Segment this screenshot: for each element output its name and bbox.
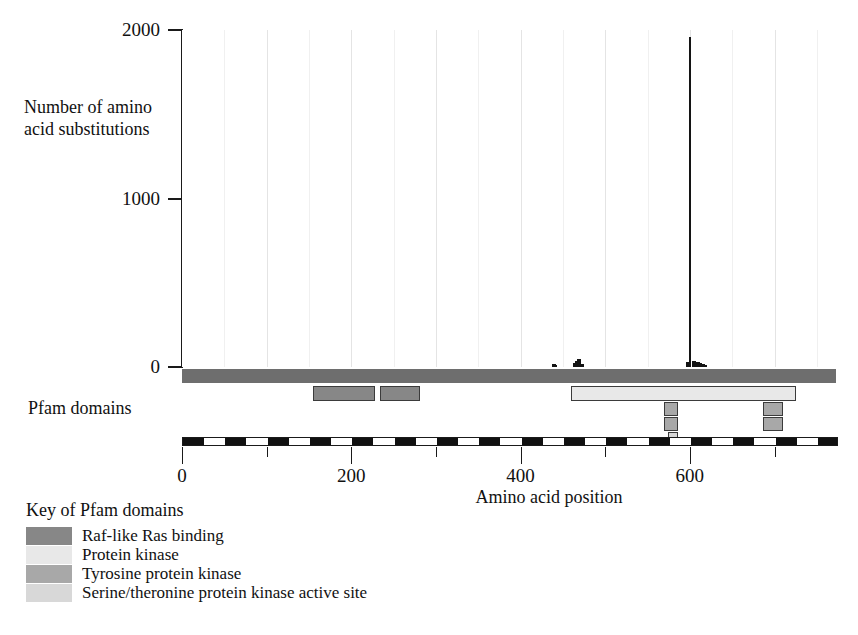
legend-item: Serine/theronine protein kinase active s…: [26, 583, 628, 602]
ruler-segment: [733, 438, 754, 445]
x-tick-label: 400: [471, 466, 571, 486]
x-tick: [690, 447, 691, 464]
x-tick-minor: [436, 447, 437, 457]
gridline: [648, 30, 649, 367]
substitution-bar: [553, 365, 557, 367]
gridline: [817, 30, 818, 367]
legend-item: Raf-like Ras binding: [26, 526, 628, 545]
x-tick-label: 600: [640, 466, 740, 486]
legend: Key of Pfam domains Raf-like Ras binding…: [8, 500, 628, 602]
gridline: [732, 30, 733, 367]
gridline: [436, 30, 437, 367]
protein-backbone-bar: [182, 369, 836, 383]
legend-swatch: [26, 546, 72, 564]
legend-label: Tyrosine protein kinase: [82, 565, 241, 583]
gridline: [351, 30, 352, 367]
ruler-segment: [352, 438, 373, 445]
ruler-segment: [818, 438, 838, 445]
y-tick-label: 2000: [60, 20, 160, 39]
pfam-domain-track: [182, 385, 838, 433]
gridline: [309, 30, 310, 367]
legend-swatch: [26, 584, 72, 602]
x-tick-label: 0: [132, 466, 232, 486]
pfam-domain-box: [664, 402, 678, 416]
substitution-bar: [580, 364, 584, 367]
gridline: [394, 30, 395, 367]
legend-title: Key of Pfam domains: [26, 500, 628, 521]
y-tick-label: 1000: [60, 189, 160, 208]
y-tick-label: 0: [60, 357, 160, 376]
legend-label: Raf-like Ras binding: [82, 527, 224, 545]
legend-label: Protein kinase: [82, 546, 179, 564]
legend-item: Protein kinase: [26, 545, 628, 564]
x-tick-minor: [605, 447, 606, 457]
ruler-segment: [395, 438, 416, 445]
y-axis-title: Number of amino acid substitutions: [24, 96, 174, 140]
legend-swatch: [26, 527, 72, 545]
legend-swatch: [26, 565, 72, 583]
x-tick-label: 200: [301, 466, 401, 486]
pfam-domain-box: [763, 417, 783, 431]
x-tick: [182, 447, 183, 464]
x-tick: [521, 447, 522, 464]
legend-label: Serine/theronine protein kinase active s…: [82, 584, 367, 602]
legend-item: Tyrosine protein kinase: [26, 564, 628, 583]
ruler-segment: [437, 438, 458, 445]
y-tick: [168, 198, 182, 200]
gridline: [478, 30, 479, 367]
ruler-segment: [268, 438, 289, 445]
x-tick: [351, 447, 352, 464]
ruler-segment: [183, 438, 204, 445]
sequence-ruler: [182, 437, 838, 446]
ruler-segment: [776, 438, 797, 445]
ruler-segment: [606, 438, 627, 445]
substitution-bar: [689, 37, 691, 367]
x-tick-minor: [267, 447, 268, 457]
gridline: [563, 30, 564, 367]
gridline: [605, 30, 606, 367]
gridline: [521, 30, 522, 367]
gridline: [267, 30, 268, 367]
pfam-domains-label: Pfam domains: [28, 398, 132, 419]
pfam-domain-box: [571, 386, 796, 401]
pfam-domain-box: [313, 386, 375, 401]
gridline: [224, 30, 225, 367]
ruler-segment: [310, 438, 331, 445]
legend-items: Raf-like Ras bindingProtein kinaseTyrosi…: [8, 526, 628, 602]
ruler-segment: [225, 438, 246, 445]
pfam-domain-box: [380, 386, 420, 401]
ruler-segment: [522, 438, 543, 445]
pfam-domain-box: [664, 417, 678, 431]
ruler-segment: [691, 438, 712, 445]
ruler-segment: [564, 438, 585, 445]
ruler-segment: [649, 438, 670, 445]
ruler-segment: [479, 438, 500, 445]
pfam-domain-box: [763, 402, 783, 416]
plot-area: [182, 30, 838, 367]
protein-substitution-figure: Number of amino acid substitutions 01000…: [0, 0, 858, 635]
gridline: [775, 30, 776, 367]
substitution-bar: [703, 365, 707, 367]
y-tick: [168, 366, 182, 368]
x-tick-minor: [775, 447, 776, 457]
y-tick: [168, 29, 182, 31]
